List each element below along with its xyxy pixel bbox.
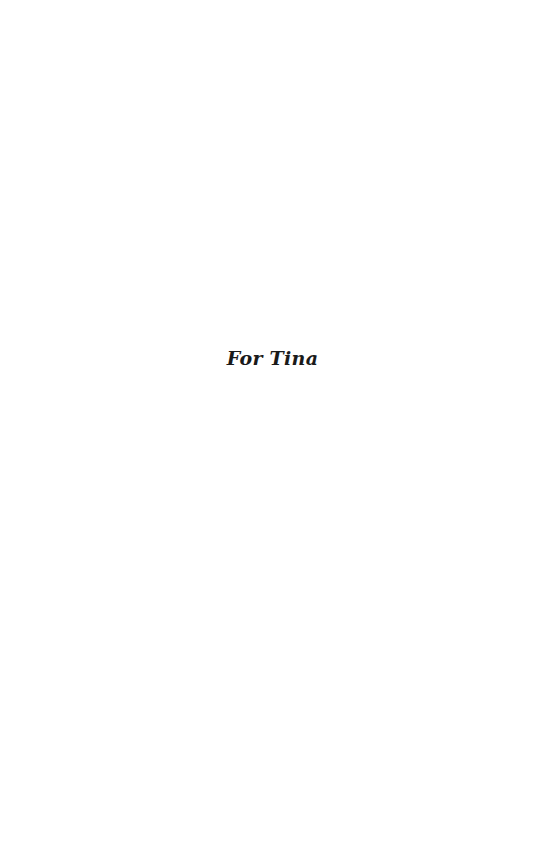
dedication-text: For Tina bbox=[0, 344, 545, 372]
book-page: For Tina bbox=[0, 0, 545, 856]
